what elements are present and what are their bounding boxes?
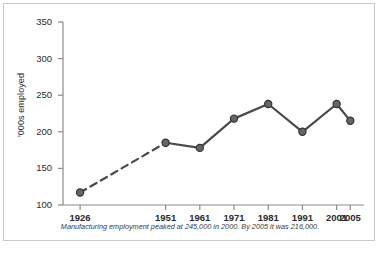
- data-line-segment: [268, 104, 302, 132]
- y-tick-label: 250: [22, 89, 52, 100]
- y-tick-label: 100: [22, 199, 52, 210]
- data-point-marker: [347, 117, 354, 124]
- data-point-marker: [299, 128, 306, 135]
- figure-frame: '000s employed 1001502002503003501926195…: [3, 3, 375, 241]
- data-point-marker: [196, 144, 203, 151]
- y-tick-label: 300: [22, 53, 52, 64]
- data-line-segment: [234, 104, 268, 119]
- plot-svg: [4, 4, 376, 242]
- chart-caption: Manufacturing employment peaked at 245,0…: [4, 222, 376, 231]
- data-point-marker: [77, 189, 84, 196]
- figure-undercaption: [4, 244, 380, 253]
- y-tick-label: 350: [22, 16, 52, 27]
- data-line-segment: [166, 143, 200, 148]
- y-tick-label: 200: [22, 126, 52, 137]
- data-line-segment-dashed: [80, 143, 166, 193]
- data-point-marker: [333, 100, 340, 107]
- y-tick-label: 150: [22, 162, 52, 173]
- data-line-segment: [302, 104, 336, 132]
- data-point-marker: [230, 115, 237, 122]
- data-line-segment: [200, 119, 234, 148]
- line-chart: '000s employed 1001502002503003501926195…: [4, 4, 376, 242]
- data-point-marker: [162, 139, 169, 146]
- data-point-marker: [265, 100, 272, 107]
